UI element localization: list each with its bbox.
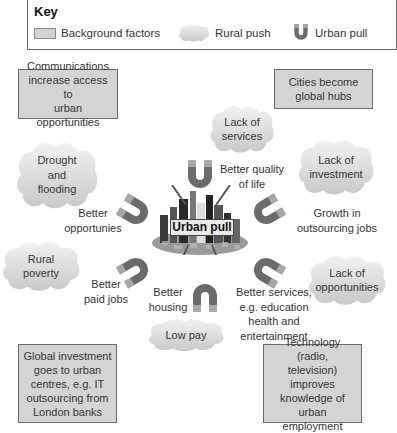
rural-push-cloud: Lack of investment: [296, 138, 376, 196]
cloud-icon: [178, 24, 210, 42]
urban-pull-label: Better paid jobs: [78, 277, 134, 306]
rural-push-cloud: Lack of opportunities: [306, 254, 388, 306]
grey-box-icon: [34, 28, 56, 39]
urban-pull-label: Better housing: [143, 285, 193, 314]
key-label: Rural push: [215, 27, 271, 39]
rural-push-cloud: Low pay: [146, 318, 226, 352]
background-factor-box: Cities become global hubs: [274, 69, 373, 109]
rural-push-cloud: Rural poverty: [0, 240, 82, 292]
urban-pull-label: Better quality of life: [212, 162, 292, 191]
magnet-icon: [292, 23, 310, 43]
urban-pull-label: Better opportunies: [56, 206, 130, 235]
rural-push-cloud: Drought and flooding: [14, 140, 100, 210]
background-factor-box: Global investment goes to urban centres,…: [18, 344, 117, 423]
key-label: Urban pull: [315, 27, 367, 39]
key-label: Background factors: [61, 27, 160, 39]
background-factor-box: Communications increase access to urban …: [18, 69, 118, 119]
urban-pull-label: Growth in outsourcing jobs: [282, 206, 392, 235]
key-item-rural-push: Rural push: [178, 23, 271, 43]
rural-push-cloud: Lack of services: [208, 104, 276, 154]
urban-pull-center-label: Urban pull: [170, 219, 234, 236]
background-factor-box: Technology (radio, television) improves …: [263, 344, 362, 423]
magnet-icon: [189, 278, 221, 314]
key-item-urban-pull: Urban pull: [292, 23, 367, 43]
key-title: Key: [34, 4, 58, 19]
urban-pull-label: Better services, e.g. education health a…: [232, 285, 316, 343]
key-legend: Key Background factors Rural push Urban …: [27, 0, 397, 50]
key-item-background-factors: Background factors: [34, 23, 160, 43]
